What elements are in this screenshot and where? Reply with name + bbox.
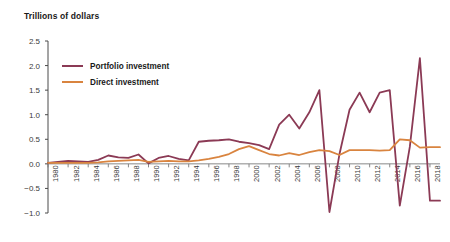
legend-label: Direct investment	[90, 78, 159, 87]
line-chart: Trillions of dollars 2.52.01.51.00.50.0−…	[0, 0, 450, 242]
legend-label: Portfolio investment	[90, 62, 169, 71]
plot-area	[0, 0, 450, 242]
legend-item: Portfolio investment	[62, 58, 169, 74]
legend-color-swatch	[62, 81, 83, 84]
legend-item: Direct investment	[62, 74, 169, 90]
legend-color-swatch	[62, 65, 83, 68]
chart-legend: Portfolio investmentDirect investment	[62, 58, 169, 90]
